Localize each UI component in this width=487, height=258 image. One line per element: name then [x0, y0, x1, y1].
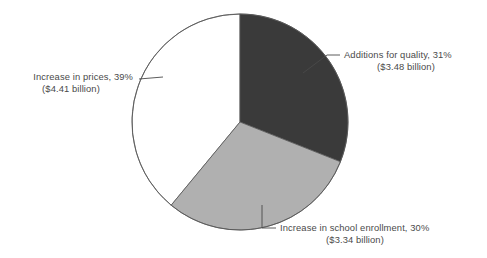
label-increase-in-prices-line2: ($4.41 billion) [42, 83, 100, 94]
pie-chart-figure: Additions for quality, 31% ($3.48 billio… [0, 0, 487, 258]
label-additions-for-quality-line1: Additions for quality, 31% [344, 49, 452, 60]
label-additions-for-quality-line2: ($3.48 billion) [377, 61, 435, 72]
label-increase-in-prices-line1: Increase in prices, 39% [33, 71, 133, 82]
label-increase-in-school-enrollment-line1: Increase in school enrollment, 30% [280, 222, 429, 233]
pie-chart-svg: Additions for quality, 31% ($3.48 billio… [0, 0, 487, 258]
label-increase-in-school-enrollment-line2: ($3.34 billion) [326, 234, 384, 245]
